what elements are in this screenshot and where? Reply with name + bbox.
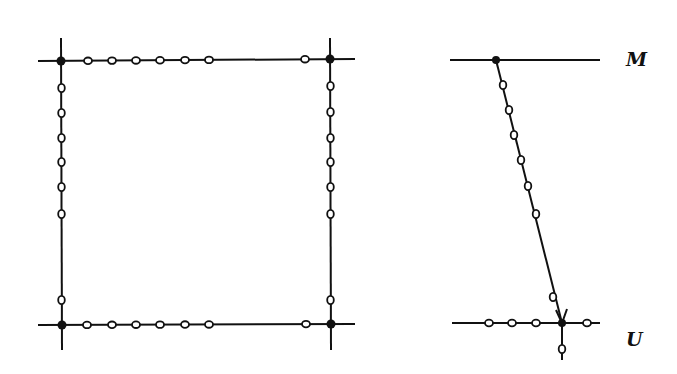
open-node-left (58, 158, 65, 166)
filled-corner-node (57, 57, 66, 66)
open-node-diagonal (550, 293, 557, 301)
left-square-lattice (38, 38, 355, 350)
open-node-diagonal (518, 156, 525, 164)
open-node-top (132, 57, 140, 64)
open-node-left (58, 296, 65, 304)
open-node-right (327, 158, 334, 166)
open-node-right (327, 108, 334, 116)
open-node-bottom (205, 321, 213, 328)
open-node-left (58, 183, 65, 191)
filled-corner-node (327, 320, 336, 329)
open-node-left (58, 84, 65, 92)
open-node-diagonal (525, 182, 532, 190)
open-node-diagonal (533, 210, 540, 218)
filled-node-bottom (558, 319, 566, 327)
diagram-canvas (0, 0, 677, 374)
right-projection-diagram (450, 56, 600, 360)
filled-node-top (492, 56, 500, 64)
open-node-diagonal (506, 106, 513, 114)
open-node-bottom (156, 321, 164, 328)
open-node-bottom (83, 322, 91, 329)
open-node-top (205, 57, 213, 64)
open-node-right (327, 296, 334, 304)
open-node-top (108, 57, 116, 64)
open-node-right (327, 183, 334, 191)
open-node-u-line (508, 320, 516, 327)
open-node-top (156, 57, 164, 64)
open-node-u-line (532, 320, 540, 327)
open-node-diagonal (511, 131, 518, 139)
open-node-bottom (302, 321, 310, 328)
open-node-right (327, 210, 334, 218)
open-node-bottom (108, 322, 116, 329)
open-node-u-line (485, 320, 493, 327)
open-node-left (58, 210, 65, 218)
open-node-top (301, 56, 309, 63)
open-node-left (58, 134, 65, 142)
label-m: M (626, 48, 647, 70)
open-node-top (84, 57, 92, 64)
open-node-diagonal (500, 81, 507, 89)
filled-corner-node (326, 55, 335, 64)
open-node-below (559, 345, 566, 353)
filled-corner-node (58, 321, 67, 330)
open-node-u-line (583, 320, 591, 327)
diagonal-arrow-line (496, 60, 562, 323)
open-node-left (58, 109, 65, 117)
open-node-right (327, 134, 334, 142)
open-node-top (181, 57, 189, 64)
open-node-bottom (181, 321, 189, 328)
label-u: U (626, 328, 643, 350)
open-node-right (327, 82, 334, 90)
open-node-bottom (132, 321, 140, 328)
